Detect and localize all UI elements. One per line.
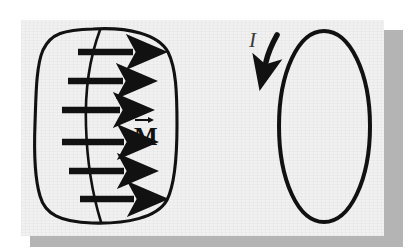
- magnetization-arrows: [62, 52, 134, 199]
- current-direction-arrow: [266, 35, 277, 62]
- vector-arrow-accent-icon: [135, 115, 154, 124]
- current-label: I: [249, 30, 256, 51]
- diagram-ink-layer: [0, 0, 413, 252]
- current-loop-group: [266, 31, 370, 222]
- cylinder-front-edge: [86, 30, 101, 222]
- figure-root: M I: [0, 0, 413, 252]
- current-loop-outline: [279, 31, 370, 222]
- magnetization-label: M: [134, 115, 158, 149]
- magnetization-label-text: M: [134, 124, 158, 149]
